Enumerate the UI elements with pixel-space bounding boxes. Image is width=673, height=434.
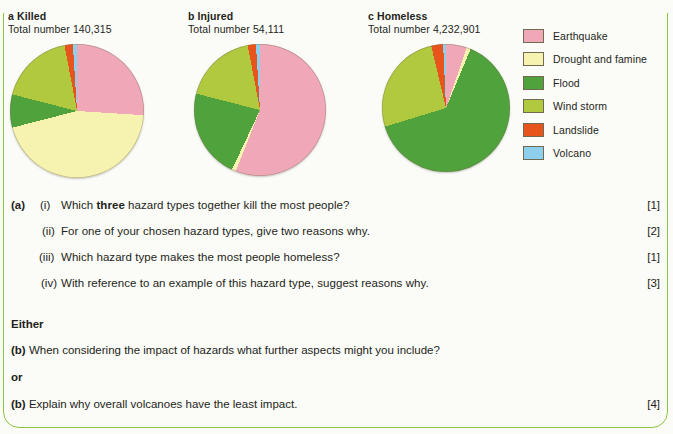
chart-c-letter: c xyxy=(368,10,374,22)
legend-item: Wind storm xyxy=(523,95,647,119)
question-row-ii: (ii) For one of your chosen hazard types… xyxy=(0,222,673,248)
pie-a-rim xyxy=(10,44,144,178)
legend-swatch-volcano xyxy=(523,146,544,160)
option-2-label: (b) xyxy=(11,398,26,410)
option-1-text: When considering the impact of hazards w… xyxy=(29,344,440,356)
chart-c-title: Homeless xyxy=(377,10,427,22)
legend-label: Drought and famine xyxy=(553,53,647,65)
question-i-text: Which three hazard types together kill t… xyxy=(61,199,350,211)
option-2-text: Explain why overall volcanoes have the l… xyxy=(29,398,297,410)
question-iv-number: (iv) xyxy=(41,277,57,289)
legend-label: Landslide xyxy=(553,124,599,136)
legend-item: Volcano xyxy=(523,142,647,166)
question-iii-marks: [1] xyxy=(647,251,660,263)
question-b-option-2: (b) Explain why overall volcanoes have t… xyxy=(11,398,297,410)
question-i-bold: three xyxy=(96,199,124,211)
chart-a-letter: a xyxy=(8,10,14,22)
legend-item: Flood xyxy=(523,71,647,95)
pie-chart-killed: a Killed Total number 140,315 xyxy=(8,10,144,178)
question-ii-number: (ii) xyxy=(42,225,55,237)
legend-swatch-wind-storm xyxy=(523,99,544,113)
question-iv-marks: [3] xyxy=(647,277,660,289)
legend-label: Volcano xyxy=(553,147,591,159)
question-ii-text: For one of your chosen hazard types, giv… xyxy=(61,225,370,237)
chart-a-total: Total number 140,315 xyxy=(8,23,144,35)
chart-b-total: Total number 54,111 xyxy=(188,23,326,35)
question-row-iv: (iv) With reference to an example of thi… xyxy=(0,274,673,300)
chart-a-caption: a Killed xyxy=(8,10,144,22)
pie-b-graphic xyxy=(194,44,326,176)
legend-item: Drought and famine xyxy=(523,48,647,72)
chart-c-caption: c Homeless xyxy=(368,10,510,22)
question-row-iii: (iii) Which hazard type makes the most p… xyxy=(0,248,673,274)
legend-item: Earthquake xyxy=(523,24,647,48)
legend-swatch-flood xyxy=(523,76,544,90)
legend-swatch-earthquake xyxy=(523,29,544,43)
legend-label: Earthquake xyxy=(553,30,608,42)
pie-c-rim xyxy=(382,44,510,172)
or-label: or xyxy=(11,371,23,383)
legend-swatch-drought-and-famine xyxy=(523,52,544,66)
charts-region: a Killed Total number 140,315 b Injured … xyxy=(0,0,673,190)
question-iv-text: With reference to an example of this haz… xyxy=(61,277,429,289)
question-b-option-1: (b) When considering the impact of hazar… xyxy=(11,344,440,356)
legend-label: Wind storm xyxy=(553,100,607,112)
legend-item: Landslide xyxy=(523,118,647,142)
question-iii-text: Which hazard type makes the most people … xyxy=(61,251,340,263)
pie-c-graphic xyxy=(382,44,510,172)
question-i-number: (i) xyxy=(40,199,50,211)
question-ii-marks: [2] xyxy=(647,225,660,237)
questions-region: (a) (i) Which three hazard types togethe… xyxy=(0,196,673,300)
chart-b-caption: b Injured xyxy=(188,10,326,22)
question-iii-number: (iii) xyxy=(39,251,54,263)
chart-b-letter: b xyxy=(188,10,195,22)
option-1-label: (b) xyxy=(11,344,26,356)
exam-question-page: a Killed Total number 140,315 b Injured … xyxy=(0,0,673,434)
question-i-marks: [1] xyxy=(647,199,660,211)
pie-a-graphic xyxy=(10,44,144,178)
pie-chart-injured: b Injured Total number 54,111 xyxy=(188,10,326,176)
legend-swatch-landslide xyxy=(523,123,544,137)
chart-legend: EarthquakeDrought and famineFloodWind st… xyxy=(523,24,647,165)
part-a-label: (a) xyxy=(11,199,25,211)
chart-b-title: Injured xyxy=(198,10,234,22)
option-2-marks: [4] xyxy=(647,398,660,410)
legend-label: Flood xyxy=(553,77,580,89)
pie-chart-homeless: c Homeless Total number 4,232,901 xyxy=(368,10,510,172)
either-label: Either xyxy=(11,318,44,330)
chart-c-total: Total number 4,232,901 xyxy=(368,23,510,35)
pie-b-rim xyxy=(194,44,326,176)
chart-a-title: Killed xyxy=(17,10,46,22)
question-row-i: (a) (i) Which three hazard types togethe… xyxy=(0,196,673,222)
